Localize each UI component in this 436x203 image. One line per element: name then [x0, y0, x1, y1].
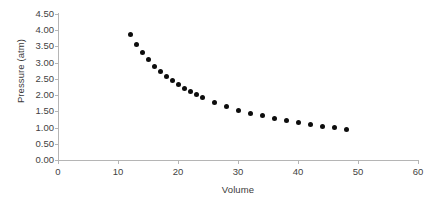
data-point	[320, 124, 325, 129]
x-axis-tick-mark	[358, 161, 359, 164]
y-axis-tick-label: 1.00	[20, 123, 54, 133]
y-axis-tick-mark	[55, 144, 58, 145]
y-axis-tick-label: 3.50	[20, 41, 54, 51]
x-axis-tick-label: 20	[163, 167, 193, 177]
y-axis-tick-label: 4.00	[20, 25, 54, 35]
plot-area	[58, 14, 418, 160]
data-point	[200, 95, 205, 100]
data-point	[158, 69, 163, 74]
x-axis-tick-label: 40	[283, 167, 313, 177]
data-point	[272, 116, 277, 121]
data-point	[194, 92, 199, 97]
x-axis-title: Volume	[58, 184, 418, 195]
data-point	[296, 120, 301, 125]
y-axis-tick-label: 0.00	[20, 155, 54, 165]
y-axis-tick-mark	[55, 128, 58, 129]
data-point	[140, 50, 145, 55]
data-point	[284, 118, 289, 123]
data-point	[236, 108, 241, 113]
x-axis-tick-mark	[58, 161, 59, 164]
data-point	[134, 42, 139, 47]
data-point	[128, 32, 133, 37]
data-point	[332, 125, 337, 130]
y-axis-tick-mark	[55, 14, 58, 15]
x-axis-tick-mark	[418, 161, 419, 164]
x-axis-tick-mark	[238, 161, 239, 164]
y-axis-tick-mark	[55, 79, 58, 80]
y-axis-tick-label: 0.50	[20, 139, 54, 149]
data-point	[188, 89, 193, 94]
x-axis-tick-label: 60	[403, 167, 433, 177]
data-point	[170, 78, 175, 83]
y-axis-tick-mark	[55, 95, 58, 96]
data-point	[176, 82, 181, 87]
y-axis-tick-label: 2.00	[20, 90, 54, 100]
data-point	[164, 74, 169, 79]
y-axis-tick-mark	[55, 30, 58, 31]
y-axis-tick-label: 4.50	[20, 9, 54, 19]
y-axis-tick-label: 2.50	[20, 74, 54, 84]
y-axis-tick-mark	[55, 46, 58, 47]
x-axis-tick-mark	[118, 161, 119, 164]
data-point	[344, 127, 349, 132]
data-point	[146, 57, 151, 62]
y-axis-tick-mark	[55, 111, 58, 112]
x-axis-tick-mark	[298, 161, 299, 164]
x-axis-tick-label: 50	[343, 167, 373, 177]
data-point	[260, 113, 265, 118]
data-point	[212, 100, 217, 105]
data-point	[248, 111, 253, 116]
x-axis-tick-label: 10	[103, 167, 133, 177]
data-point	[224, 104, 229, 109]
data-point	[308, 122, 313, 127]
y-axis-tick-label: 1.50	[20, 106, 54, 116]
data-point	[182, 86, 187, 91]
y-axis-tick-label: 3.00	[20, 58, 54, 68]
data-point	[152, 64, 157, 69]
scatter-chart: Pressure (atm) 0.000.501.001.502.002.503…	[0, 0, 436, 203]
x-axis-tick-label: 0	[43, 167, 73, 177]
x-axis-tick-label: 30	[223, 167, 253, 177]
y-axis-tick-mark	[55, 63, 58, 64]
x-axis-tick-mark	[178, 161, 179, 164]
